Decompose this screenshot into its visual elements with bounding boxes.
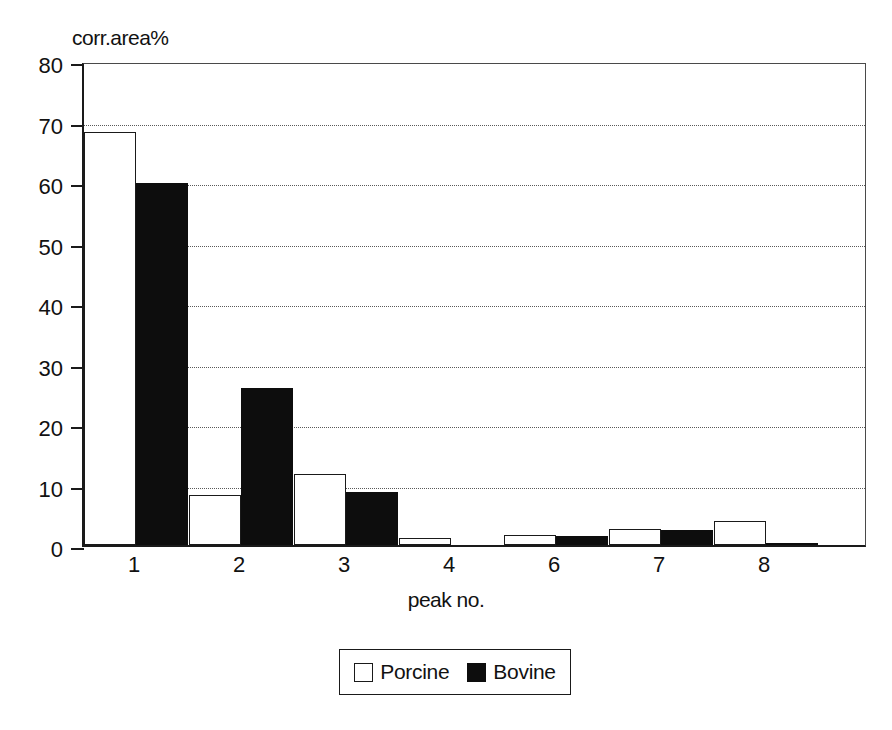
bar-porcine-8 xyxy=(714,521,766,545)
bar-porcine-2 xyxy=(189,495,241,545)
legend-item-porcine: Porcine xyxy=(354,660,449,684)
x-axis-label-1: 1 xyxy=(128,552,140,578)
y-axis-tick: 10 xyxy=(71,488,84,490)
y-axis-tick: 60 xyxy=(71,185,84,187)
bar-bovine-7 xyxy=(661,530,713,545)
legend-label-porcine: Porcine xyxy=(380,660,449,684)
y-axis-tick: 30 xyxy=(71,367,84,369)
y-axis-tick-label: 20 xyxy=(39,416,63,442)
legend-label-bovine: Bovine xyxy=(493,660,555,684)
y-axis-tick: 40 xyxy=(71,306,84,308)
bar-porcine-6 xyxy=(504,535,556,545)
bar-porcine-1 xyxy=(84,132,136,545)
y-axis-tick: 80 xyxy=(71,64,84,66)
y-axis-tick-label: 30 xyxy=(39,356,63,382)
y-axis-tick: 20 xyxy=(71,427,84,429)
y-axis-tick-label: 10 xyxy=(39,477,63,503)
y-axis-tick-label: 70 xyxy=(39,114,63,140)
bar-chart-figure: corr.area% 01020304050607080 1234678 pea… xyxy=(0,0,892,730)
x-axis-title: peak no. xyxy=(0,588,892,612)
y-axis-tick-label: 0 xyxy=(51,537,63,563)
bar-group xyxy=(84,64,189,545)
bar-group xyxy=(714,64,819,545)
bar-group xyxy=(294,64,399,545)
y-axis-tick: 70 xyxy=(71,125,84,127)
legend-swatch-bovine xyxy=(467,663,486,682)
bar-bovine-8 xyxy=(766,543,818,545)
plot-area: 01020304050607080 xyxy=(82,63,866,547)
bar-bovine-3 xyxy=(346,492,398,545)
y-axis-tick-label: 40 xyxy=(39,295,63,321)
x-axis-label-6: 6 xyxy=(548,552,560,578)
x-axis-label-3: 3 xyxy=(338,552,350,578)
y-axis-tick: 0 xyxy=(71,548,84,550)
bar-group xyxy=(189,64,294,545)
bar-porcine-3 xyxy=(294,474,346,545)
legend: Porcine Bovine xyxy=(339,649,571,695)
y-axis-tick-label: 60 xyxy=(39,174,63,200)
x-axis-label-8: 8 xyxy=(758,552,770,578)
y-axis-tick-label: 50 xyxy=(39,235,63,261)
bar-group xyxy=(399,64,504,545)
y-axis-tick-label: 80 xyxy=(39,53,63,79)
bar-bovine-6 xyxy=(556,536,608,545)
bar-group xyxy=(504,64,609,545)
x-axis-label-7: 7 xyxy=(653,552,665,578)
y-axis-title: corr.area% xyxy=(72,26,169,50)
legend-swatch-porcine xyxy=(354,663,373,682)
y-axis-tick: 50 xyxy=(71,246,84,248)
x-axis-label-2: 2 xyxy=(233,552,245,578)
bar-porcine-7 xyxy=(609,529,661,545)
bar-bovine-1 xyxy=(136,183,188,545)
bar-group xyxy=(609,64,714,545)
bar-bovine-2 xyxy=(241,388,293,545)
legend-item-bovine: Bovine xyxy=(467,660,555,684)
x-axis-label-4: 4 xyxy=(443,552,455,578)
bar-porcine-4 xyxy=(399,538,451,545)
bars-layer xyxy=(84,64,865,545)
